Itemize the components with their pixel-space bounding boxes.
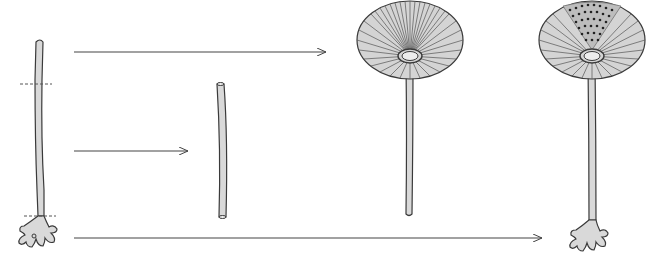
rhizoid-base [19, 216, 57, 247]
isolated-stalk-segment [217, 83, 227, 219]
whole-regenerated-cell [539, 1, 645, 251]
stalk [406, 62, 413, 216]
diagram-canvas [0, 0, 661, 271]
stalk [588, 62, 596, 220]
intact-cell [19, 40, 57, 247]
rhizoid-base [570, 220, 608, 251]
cap-regenerated-stalk [357, 1, 463, 216]
intact-stalk [35, 40, 44, 216]
